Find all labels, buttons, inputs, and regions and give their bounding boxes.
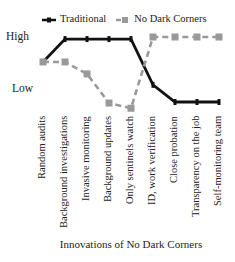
- x-tick-label: ID, work verification: [146, 116, 157, 205]
- x-tick-label: Invasive monitoring: [80, 116, 91, 201]
- data-point-marker: [174, 99, 177, 105]
- x-tick-label: Transparency on the job: [190, 116, 201, 217]
- x-axis-title: Innovations of No Dark Corners: [36, 238, 226, 250]
- data-point-marker: [150, 34, 157, 41]
- ndc-legend-icon: [116, 15, 130, 23]
- data-point-marker: [216, 34, 223, 41]
- data-point-marker: [108, 36, 111, 42]
- data-point-marker: [172, 34, 179, 41]
- traditional-legend-icon: [42, 15, 56, 23]
- data-point-marker: [152, 82, 155, 88]
- series-line-0: [43, 39, 219, 102]
- series-line-1: [43, 37, 219, 108]
- data-point-marker: [218, 99, 221, 105]
- y-label-low: Low: [12, 82, 33, 94]
- data-point-marker: [86, 36, 89, 42]
- x-tick-label: Random audits: [36, 116, 47, 179]
- x-tick-label: Background updates: [102, 116, 113, 202]
- y-label-high: High: [6, 30, 29, 42]
- data-point-marker: [196, 99, 199, 105]
- chart-legend: Traditional No Dark Corners: [42, 13, 207, 24]
- x-tick-label: Background investigations: [58, 116, 69, 228]
- data-point-marker: [130, 36, 133, 42]
- data-point-marker: [40, 58, 47, 65]
- data-point-marker: [84, 70, 91, 77]
- x-tick-label: Close probation: [168, 116, 179, 183]
- data-point-marker: [194, 34, 201, 41]
- x-tick-label: Self-monitoring team: [212, 116, 223, 206]
- x-tick-label: Only sentinels watch: [124, 116, 135, 204]
- data-point-marker: [62, 58, 69, 65]
- data-point-marker: [128, 105, 135, 112]
- data-point-marker: [106, 100, 113, 107]
- legend-traditional-label: Traditional: [60, 13, 106, 24]
- legend-ndc-label: No Dark Corners: [134, 13, 206, 24]
- data-point-marker: [64, 36, 67, 42]
